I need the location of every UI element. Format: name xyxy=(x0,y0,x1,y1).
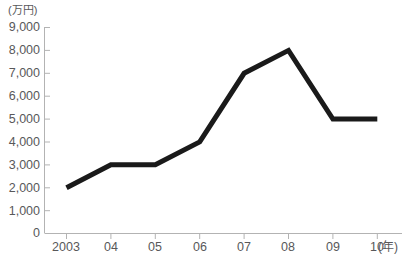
x-tick-label-07: 07 xyxy=(221,240,267,254)
x-tick-label-04: 04 xyxy=(88,240,134,254)
x-axis-ticks xyxy=(67,234,378,240)
x-tick-label-08: 08 xyxy=(265,240,311,254)
y-tick-label-0: 0 xyxy=(0,226,40,240)
y-tick-label-1000: 1,000 xyxy=(0,204,40,218)
x-tick-label-09: 09 xyxy=(310,240,356,254)
y-tick-label-3000: 3,000 xyxy=(0,158,40,172)
chart-canvas xyxy=(0,0,409,262)
x-tick-label-05: 05 xyxy=(132,240,178,254)
y-tick-label-4000: 4,000 xyxy=(0,135,40,149)
y-tick-label-2000: 2,000 xyxy=(0,181,40,195)
data-series-line xyxy=(67,50,378,187)
y-tick-label-6000: 6,000 xyxy=(0,89,40,103)
y-tick-label-9000: 9,000 xyxy=(0,20,40,34)
line-chart: (万円) (年) 9,000 8,000 7,000 6,000 5,000 4… xyxy=(0,0,409,262)
y-tick-label-8000: 8,000 xyxy=(0,43,40,57)
x-tick-label-2003: 2003 xyxy=(43,240,89,254)
x-tick-label-06: 06 xyxy=(177,240,223,254)
y-axis-ticks xyxy=(45,28,51,211)
y-axis-unit-label: (万円) xyxy=(8,4,37,17)
y-tick-label-5000: 5,000 xyxy=(0,112,40,126)
x-tick-label-10: 10 xyxy=(354,240,400,254)
y-tick-label-7000: 7,000 xyxy=(0,66,40,80)
